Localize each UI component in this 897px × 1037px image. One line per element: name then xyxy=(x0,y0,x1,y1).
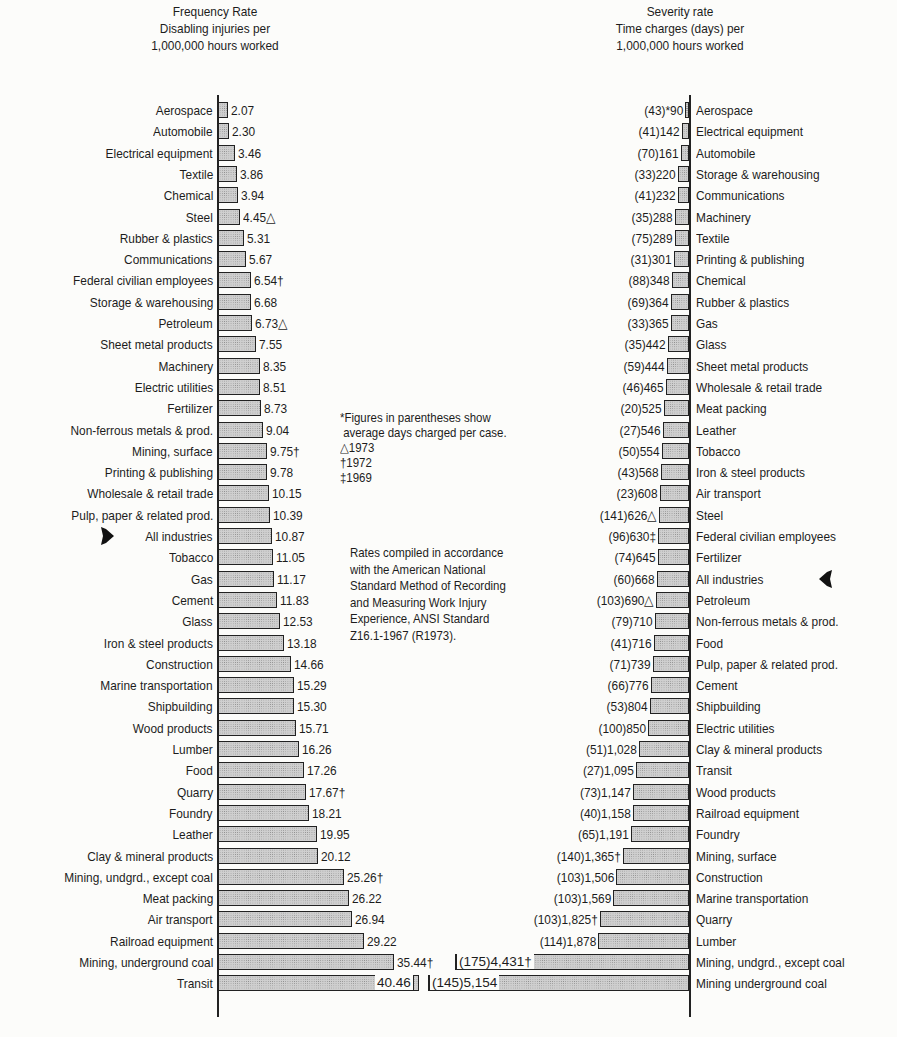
standard-note-line: Experience, ANSI Standard xyxy=(350,611,506,628)
severity-category-label: Communications xyxy=(696,187,784,204)
frequency-category-label: Tobacco xyxy=(169,549,213,566)
severity-category-label: Fertilizer xyxy=(696,549,742,566)
frequency-category-label: Mining, underground coal xyxy=(79,954,213,971)
frequency-category-label: Food xyxy=(186,762,213,779)
frequency-category-label: Printing & publishing xyxy=(105,464,213,481)
severity-value-label: (60)668 xyxy=(614,571,655,588)
severity-value-label: (53)804 xyxy=(607,698,648,715)
frequency-bar xyxy=(218,507,270,523)
severity-rate-title: Severity rate Time charges (days) per 1,… xyxy=(574,3,785,54)
frequency-title-line-2: Disabling injuries per xyxy=(109,20,320,37)
severity-bar xyxy=(633,784,689,800)
severity-category-label: Mining underground coal xyxy=(696,975,827,992)
frequency-category-label: Glass xyxy=(183,613,213,630)
frequency-value-label: 26.94 xyxy=(355,911,385,928)
severity-value-label: (59)444 xyxy=(624,358,665,375)
severity-value-label: (69)364 xyxy=(628,294,669,311)
frequency-category-label: Chemical xyxy=(163,187,213,204)
severity-value-label: (43)*90 xyxy=(644,102,683,119)
frequency-rate-title: Frequency Rate Disabling injuries per 1,… xyxy=(109,3,320,54)
frequency-category-label: Railroad equipment xyxy=(110,933,213,950)
severity-value-label: (88)348 xyxy=(629,272,670,289)
frequency-bar xyxy=(218,571,274,587)
frequency-bar xyxy=(218,549,273,565)
frequency-category-label: Construction xyxy=(146,656,213,673)
severity-bar xyxy=(667,358,689,374)
frequency-category-label: Non-ferrous metals & prod. xyxy=(70,422,213,439)
frequency-category-label: Marine transportation xyxy=(101,677,213,694)
severity-bar xyxy=(672,272,689,288)
severity-bar xyxy=(678,166,689,182)
severity-axis xyxy=(689,95,691,1017)
frequency-value-label: 10.39 xyxy=(273,507,303,524)
severity-category-label: Tobacco xyxy=(696,443,740,460)
severity-value-label: (65)1,191 xyxy=(578,826,629,843)
severity-bar xyxy=(668,336,689,352)
frequency-bar xyxy=(218,315,252,331)
frequency-title-line-1: Frequency Rate xyxy=(109,3,320,20)
severity-bar xyxy=(660,485,689,501)
frequency-bar xyxy=(218,528,272,544)
standard-note-line: Z16.1-1967 (R1973). xyxy=(350,628,506,645)
severity-category-label: Wood products xyxy=(696,784,776,801)
frequency-value-label: 2.07 xyxy=(231,102,254,119)
footnote-1969: ‡1969 xyxy=(340,470,507,485)
frequency-value-label: 9.04 xyxy=(266,422,289,439)
frequency-bar xyxy=(218,635,284,651)
severity-category-label: Marine transportation xyxy=(696,890,808,907)
severity-bar xyxy=(674,251,689,267)
frequency-value-label: 14.66 xyxy=(294,656,324,673)
frequency-value-label: 9.75† xyxy=(270,443,300,460)
frequency-value-label: 5.67 xyxy=(249,251,272,268)
frequency-category-label: Air transport xyxy=(148,911,213,928)
frequency-category-label: Transit xyxy=(177,975,213,992)
severity-value-label: (27)546 xyxy=(620,422,661,439)
severity-category-label: Transit xyxy=(696,762,732,779)
severity-bar xyxy=(661,464,689,480)
severity-bar xyxy=(658,528,689,544)
frequency-category-label: Steel xyxy=(186,209,213,226)
footnote-line: average days charged per case. xyxy=(340,425,507,440)
frequency-bar xyxy=(218,443,267,459)
frequency-value-label: 6.68 xyxy=(254,294,277,311)
severity-bar xyxy=(658,549,689,565)
severity-title-line-3: 1,000,000 hours worked xyxy=(574,37,785,54)
severity-category-label: Quarry xyxy=(696,911,732,928)
frequency-bar xyxy=(218,698,294,714)
severity-bar xyxy=(656,592,689,608)
severity-value-label: (66)776 xyxy=(608,677,649,694)
frequency-category-label: Textile xyxy=(179,166,213,183)
frequency-value-label: 15.71 xyxy=(299,720,329,737)
severity-category-label: Gas xyxy=(696,315,718,332)
frequency-bar xyxy=(218,720,296,736)
frequency-category-label: Quarry xyxy=(177,784,213,801)
severity-title-line-1: Severity rate xyxy=(574,3,785,20)
frequency-category-label: Federal civilian employees xyxy=(73,272,213,289)
frequency-bar xyxy=(218,251,246,267)
severity-bar xyxy=(678,187,689,203)
severity-value-label: (31)301 xyxy=(631,251,672,268)
severity-value-label: (41)716 xyxy=(611,635,652,652)
frequency-bar xyxy=(218,954,394,970)
frequency-value-label: 12.53 xyxy=(283,613,313,630)
severity-category-label: Construction xyxy=(696,869,763,886)
severity-category-label: Lumber xyxy=(696,933,736,950)
severity-bar xyxy=(681,145,689,161)
frequency-category-label: Aerospace xyxy=(156,102,213,119)
frequency-bar xyxy=(218,848,318,864)
severity-bar xyxy=(616,869,689,885)
frequency-bar xyxy=(218,464,267,480)
severity-category-label: Meat packing xyxy=(696,400,767,417)
frequency-category-label: Automobile xyxy=(154,123,213,140)
severity-bar xyxy=(685,102,689,118)
severity-bar xyxy=(662,443,689,459)
frequency-bar xyxy=(218,230,244,246)
severity-value-label: (35)288 xyxy=(632,209,673,226)
severity-bar xyxy=(664,400,689,416)
frequency-category-label: Pulp, paper & related prod. xyxy=(71,507,213,524)
frequency-bar xyxy=(218,400,261,416)
frequency-bar xyxy=(218,741,299,757)
frequency-category-label: Shipbuilding xyxy=(148,698,213,715)
frequency-category-label: Rubber & plastics xyxy=(120,230,213,247)
severity-title-line-2: Time charges (days) per xyxy=(574,20,785,37)
